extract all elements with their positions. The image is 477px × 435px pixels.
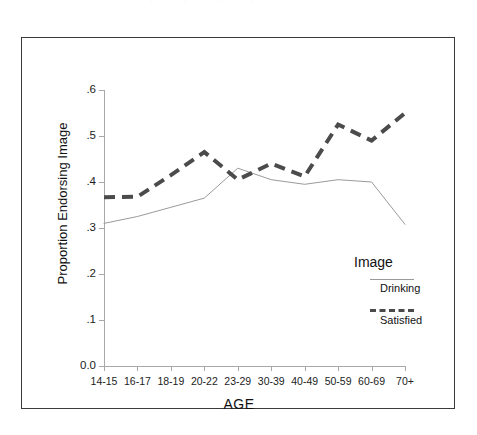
series-line-satisfied [104,113,405,197]
legend-label-drinking: Drinking [380,282,420,294]
legend-swatch-satisfied [370,309,414,312]
legend-swatch-drinking [370,279,414,280]
legend-item-drinking[interactable]: Drinking [352,270,452,302]
series-line-drinking [104,168,405,224]
legend-title: Image [352,254,452,270]
legend-label-satisfied: Satisfied [380,314,422,326]
figure-frame: 0.0.1.2.3.4.5.6 14-1516-1718-1920-2223-2… [21,37,455,409]
legend: Image Drinking Satisfied [352,254,452,334]
chart-plot [22,38,456,410]
scan-artifact-text: · · · · [150,0,370,6]
legend-item-satisfied[interactable]: Satisfied [352,302,452,334]
